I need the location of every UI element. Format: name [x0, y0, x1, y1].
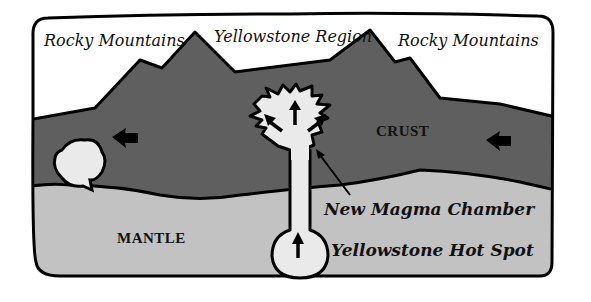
- yellowstone-hotspot-diagram: Rocky Mountains Yellowstone Region Rocky…: [0, 0, 591, 302]
- label-rocky-mountains-right: Rocky Mountains: [397, 31, 539, 50]
- label-yellowstone-hot-spot: Yellowstone Hot Spot: [331, 240, 534, 260]
- label-crust: CRUST: [376, 123, 429, 139]
- label-rocky-mountains-left: Rocky Mountains: [43, 31, 185, 50]
- label-new-magma-chamber: New Magma Chamber: [323, 199, 535, 219]
- label-mantle: MANTLE: [117, 230, 186, 246]
- label-yellowstone-region: Yellowstone Region: [214, 27, 372, 46]
